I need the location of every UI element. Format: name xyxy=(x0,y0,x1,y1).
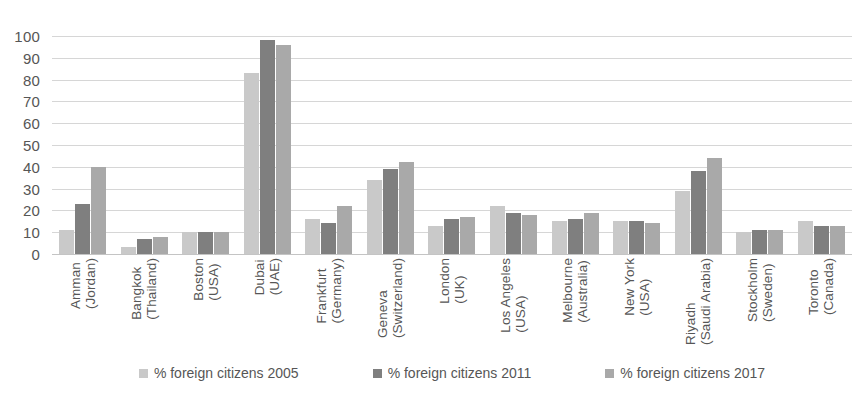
bar xyxy=(367,180,382,254)
bar xyxy=(522,215,537,254)
x-axis-tick-label: Toronto(Canada) xyxy=(807,258,836,315)
x-axis-tick-label: Riyadh(Saudi Arabia) xyxy=(684,258,713,345)
bar xyxy=(214,232,229,254)
x-axis-tick-label: Amman(Jordan) xyxy=(68,258,97,309)
x-axis-label-cell: London(UK) xyxy=(421,258,483,354)
bar-group xyxy=(729,36,791,254)
bar xyxy=(490,206,505,254)
bar xyxy=(736,232,751,254)
chart-legend: % foreign citizens 2005% foreign citizen… xyxy=(52,362,852,384)
x-axis-tick-label: Frankfurt(Germany) xyxy=(314,258,343,323)
axis-baseline xyxy=(52,254,852,255)
bar xyxy=(399,162,414,254)
bar xyxy=(506,213,521,254)
bar xyxy=(798,221,813,254)
x-axis-label-cell: Boston(USA) xyxy=(175,258,237,354)
x-axis: Amman(Jordan)Bangkok(Thailand)Boston(USA… xyxy=(52,258,852,354)
bar xyxy=(244,73,259,254)
bar xyxy=(768,230,783,254)
bar xyxy=(276,45,291,254)
bar xyxy=(552,221,567,254)
x-axis-label-cell: New York(USA) xyxy=(606,258,668,354)
bar-group xyxy=(52,36,114,254)
bar xyxy=(321,223,336,254)
x-axis-tick-label: New York(USA) xyxy=(622,258,651,316)
x-axis-label-cell: Melbourne(Australia) xyxy=(544,258,606,354)
x-axis-label-cell: Toronto(Canada) xyxy=(790,258,852,354)
bar xyxy=(645,223,660,254)
bar xyxy=(584,213,599,254)
x-axis-label-cell: Los Angeles(USA) xyxy=(483,258,545,354)
y-axis-tick-label: 20 xyxy=(23,203,40,218)
x-axis-tick-label: Boston(USA) xyxy=(191,258,220,301)
bar xyxy=(460,217,475,254)
y-axis-tick-label: 100 xyxy=(14,29,40,44)
y-axis-tick-label: 90 xyxy=(23,50,40,65)
y-axis-tick-label: 10 xyxy=(23,225,40,240)
bar-group xyxy=(667,36,729,254)
bar xyxy=(613,221,628,254)
x-axis-tick-label: London(UK) xyxy=(437,258,466,304)
y-axis-tick-label: 70 xyxy=(23,94,40,109)
bar xyxy=(198,232,213,254)
x-axis-label-cell: Stockholm(Sweden) xyxy=(729,258,791,354)
bar xyxy=(428,226,443,254)
bar xyxy=(830,226,845,254)
bar xyxy=(182,232,197,254)
bar xyxy=(305,219,320,254)
y-axis-tick-label: 60 xyxy=(23,116,40,131)
bar xyxy=(121,247,136,254)
bar-group xyxy=(606,36,668,254)
bar-group xyxy=(175,36,237,254)
bar xyxy=(153,237,168,254)
legend-label: % foreign citizens 2017 xyxy=(620,365,765,381)
y-axis-tick-label: 40 xyxy=(23,159,40,174)
legend-label: % foreign citizens 2011 xyxy=(388,365,532,381)
legend-swatch-icon xyxy=(373,369,382,378)
bar-group xyxy=(790,36,852,254)
x-axis-tick-label: Los Angeles(USA) xyxy=(499,258,528,333)
bar xyxy=(629,221,644,254)
legend-item[interactable]: % foreign citizens 2005 xyxy=(139,365,299,381)
bar xyxy=(260,40,275,254)
bar-group xyxy=(237,36,299,254)
y-axis-tick-label: 80 xyxy=(23,72,40,87)
x-axis-tick-label: Melbourne(Australia) xyxy=(561,258,590,323)
bar-group xyxy=(298,36,360,254)
bar xyxy=(91,167,106,254)
bar xyxy=(752,230,767,254)
x-axis-label-cell: Dubai(UAE) xyxy=(237,258,299,354)
bar xyxy=(137,239,152,254)
x-axis-label-cell: Bangkok(Thailand) xyxy=(114,258,176,354)
x-axis-label-cell: Frankfurt(Germany) xyxy=(298,258,360,354)
bar xyxy=(707,158,722,254)
y-axis-tick-label: 30 xyxy=(23,181,40,196)
x-axis-tick-label: Geneva(Switzerland) xyxy=(376,258,405,338)
x-axis-label-cell: Amman(Jordan) xyxy=(52,258,114,354)
bar xyxy=(691,171,706,254)
legend-label: % foreign citizens 2005 xyxy=(154,365,299,381)
legend-item[interactable]: % foreign citizens 2011 xyxy=(373,365,532,381)
x-axis-tick-label: Dubai(UAE) xyxy=(253,258,282,295)
bar xyxy=(337,206,352,254)
x-axis-tick-label: Stockholm(Sweden) xyxy=(745,258,774,322)
y-axis-tick-label: 0 xyxy=(31,247,40,262)
bar-group xyxy=(360,36,422,254)
bar xyxy=(59,230,74,254)
y-axis-tick-label: 50 xyxy=(23,138,40,153)
x-axis-label-cell: Riyadh(Saudi Arabia) xyxy=(667,258,729,354)
bar-group xyxy=(114,36,176,254)
x-axis-label-cell: Geneva(Switzerland) xyxy=(360,258,422,354)
bar xyxy=(814,226,829,254)
legend-swatch-icon xyxy=(605,369,614,378)
bar xyxy=(383,169,398,254)
y-axis: 0102030405060708090100 xyxy=(0,36,46,254)
x-axis-tick-label: Bangkok(Thailand) xyxy=(130,258,159,320)
plot-area xyxy=(52,36,852,254)
bar xyxy=(444,219,459,254)
bar-group xyxy=(483,36,545,254)
legend-item[interactable]: % foreign citizens 2017 xyxy=(605,365,765,381)
bar-groups xyxy=(52,36,852,254)
bar xyxy=(568,219,583,254)
bar-group xyxy=(421,36,483,254)
